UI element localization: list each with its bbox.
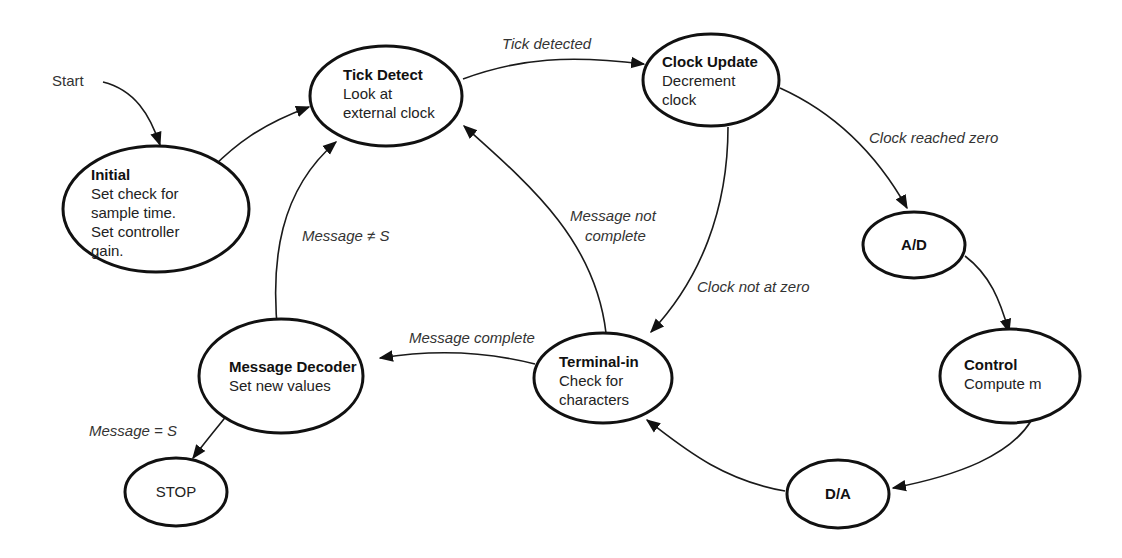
node-tick-detect-line: Look at (343, 84, 435, 103)
node-message-decoder-title: Message Decoder (229, 357, 357, 376)
node-clock-update-text: Clock Update Decrement clock (662, 52, 758, 109)
node-message-decoder-line: Set new values (229, 376, 357, 395)
node-terminal-in-line: Check for (559, 371, 639, 390)
edge-label-message-not-complete-2: complete (585, 226, 646, 245)
start-label: Start (52, 72, 84, 89)
diagram-canvas (0, 0, 1122, 558)
node-clock-update-title: Clock Update (662, 52, 758, 71)
edge-da-to-terminal-in (647, 420, 785, 491)
edge-label-tick-detected: Tick detected (502, 34, 591, 53)
node-da-title: D/A (798, 484, 878, 503)
node-stop-title: STOP (136, 482, 216, 501)
node-initial-line: gain. (91, 241, 179, 260)
edge-start-to-initial (103, 82, 160, 145)
node-tick-detect-text: Tick Detect Look at external clock (343, 65, 435, 122)
edge-label-message-eq-s: Message = S (89, 421, 177, 440)
node-control-line: Compute m (964, 374, 1042, 393)
edge-label-clock-reached-zero: Clock reached zero (869, 128, 998, 147)
node-tick-detect-title: Tick Detect (343, 65, 435, 84)
edge-initial-to-tick-detect (212, 107, 309, 168)
node-tick-detect-line: external clock (343, 103, 435, 122)
edge-label-clock-not-at-zero: Clock not at zero (697, 277, 810, 296)
edge-message-decoder-to-stop (193, 414, 228, 458)
node-terminal-in-title: Terminal-in (559, 352, 639, 371)
edge-clock-update-to-ad (780, 88, 907, 208)
edge-ad-to-control (965, 256, 1009, 332)
node-message-decoder-text: Message Decoder Set new values (229, 357, 357, 395)
edge-tick-detect-to-clock-update (463, 59, 644, 79)
edge-label-message-complete: Message complete (409, 328, 535, 347)
node-clock-update-line: clock (662, 90, 758, 109)
node-initial-line: Set check for (91, 184, 179, 203)
node-clock-update-line: Decrement (662, 71, 758, 90)
node-terminal-in-line: characters (559, 390, 639, 409)
node-control-title: Control (964, 355, 1042, 374)
node-initial-line: Set controller (91, 222, 179, 241)
edge-clock-update-to-terminal-in (651, 127, 728, 332)
node-ad-text: A/D (874, 235, 954, 254)
node-ad-title: A/D (874, 235, 954, 254)
node-stop-text: STOP (136, 482, 216, 501)
node-control-text: Control Compute m (964, 355, 1042, 393)
node-initial-text: Initial Set check for sample time. Set c… (91, 165, 179, 260)
node-terminal-in-text: Terminal-in Check for characters (559, 352, 639, 409)
node-initial-line: sample time. (91, 203, 179, 222)
node-initial-title: Initial (91, 165, 179, 184)
edge-control-to-da (893, 421, 1031, 488)
edge-label-message-not-s: Message ≠ S (302, 226, 389, 245)
edge-terminal-in-to-message-decoder (380, 353, 535, 364)
node-da-text: D/A (798, 484, 878, 503)
edge-label-message-not-complete-1: Message not (570, 206, 656, 225)
